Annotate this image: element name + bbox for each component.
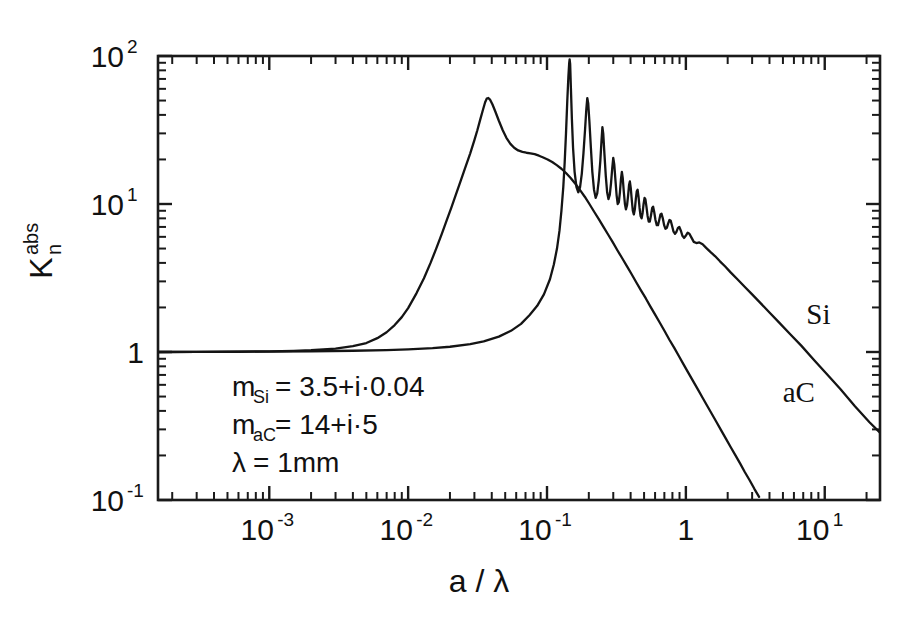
annotation-symbol: m: [232, 409, 255, 440]
y-axis-title-subscript: n: [43, 244, 65, 255]
x-tick-label-mantissa: 10: [796, 513, 829, 546]
parameter-annotations: mSi = 3.5+i·0.04maC = 14+i·5λ = 1mm: [232, 371, 424, 478]
x-tick-label: 10-1: [518, 509, 572, 546]
annotation-value: = 3.5+i·0.04: [275, 371, 424, 402]
y-tick-label: 101: [91, 184, 138, 221]
x-tick-label: 1: [678, 513, 695, 546]
curve-label-Si: Si: [806, 298, 830, 330]
y-tick-label-mantissa: 10: [91, 40, 124, 73]
y-tick-label-exponent: 1: [127, 184, 138, 205]
axis-tick-labels: 10-310-210-11101102101110-1: [91, 36, 844, 546]
y-axis-title: Knabs: [20, 223, 65, 279]
x-tick-label-exponent: -1: [555, 509, 572, 530]
x-tick-label: 101: [796, 509, 843, 546]
annotation-value: = 1mm: [253, 447, 339, 478]
annotation-m-ac: maC = 14+i·5: [232, 409, 378, 445]
annotation-value: = 14+i·5: [275, 409, 378, 440]
curve-label-aC: aC: [783, 376, 815, 408]
y-tick-label-exponent: -1: [127, 480, 144, 501]
x-tick-label-exponent: -2: [416, 509, 433, 530]
annotation-m-si: mSi = 3.5+i·0.04: [232, 371, 424, 407]
y-tick-label-mantissa: 10: [91, 484, 124, 517]
log-log-plot: 10-310-210-11101102101110-1 SiaC mSi = 3…: [0, 0, 910, 621]
y-tick-label: 102: [91, 36, 138, 73]
y-tick-label-mantissa: 10: [91, 188, 124, 221]
x-tick-label: 10-3: [241, 509, 295, 546]
annotation-subscript: Si: [253, 387, 269, 407]
x-tick-label-mantissa: 10: [518, 513, 551, 546]
y-tick-label-exponent: 2: [127, 36, 138, 57]
x-tick-label-exponent: 1: [833, 509, 844, 530]
y-tick-label-mantissa: 1: [127, 336, 144, 369]
x-tick-label-mantissa: 10: [379, 513, 412, 546]
curve-Si: [158, 59, 880, 432]
annotation-symbol: m: [232, 371, 255, 402]
annotation-symbol: λ: [232, 447, 246, 478]
x-tick-label: 10-2: [379, 509, 433, 546]
y-axis-title-symbol: K: [23, 257, 59, 278]
y-tick-label: 1: [127, 336, 144, 369]
y-tick-label: 10-1: [91, 480, 144, 517]
x-axis-title: a / λ: [449, 563, 509, 599]
x-tick-label-mantissa: 10: [241, 513, 274, 546]
y-axis-title-superscript: abs: [20, 223, 42, 255]
x-tick-label-mantissa: 1: [678, 513, 695, 546]
figure-root: 10-310-210-11101102101110-1 SiaC mSi = 3…: [0, 0, 910, 621]
x-tick-label-exponent: -3: [277, 509, 294, 530]
annotation-lambda: λ = 1mm: [232, 447, 339, 478]
annotation-subscript: aC: [253, 425, 276, 445]
